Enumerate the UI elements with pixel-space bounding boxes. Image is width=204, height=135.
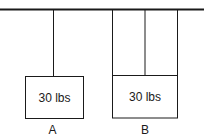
label-a: A [48,123,56,135]
weight-a-group: 30 lbs A [26,10,84,135]
weight-b-group: 30 lbs B [113,10,178,135]
hanging-weights-diagram: 30 lbs A 30 lbs B [0,0,204,135]
weight-text-b: 30 lbs [129,90,161,104]
weight-text-a: 30 lbs [38,91,70,105]
label-b: B [141,123,149,135]
